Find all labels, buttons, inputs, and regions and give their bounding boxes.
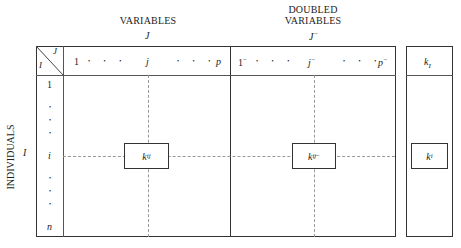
dcol-first-sup: −: [243, 56, 247, 64]
dcol-middle: j−: [308, 56, 316, 68]
col-dots-left: • • •: [88, 58, 127, 64]
dcol-middle-sup: −: [311, 56, 316, 64]
doubled-set-label: J−: [309, 30, 318, 42]
dcol-last-sup: −: [383, 56, 388, 64]
row-dot: •: [45, 172, 55, 185]
individuals-title: INDIVIDUALS: [2, 112, 18, 202]
dcol-last: p−: [378, 56, 388, 68]
row-first: 1: [47, 79, 52, 90]
individuals-set-label: I: [23, 147, 26, 158]
doubled-title-line1: DOUBLED: [283, 4, 343, 15]
cell-kij-doubled-sup: −: [315, 152, 320, 160]
col-middle: j: [146, 56, 149, 67]
dcol-dots-right: • • •: [343, 58, 382, 64]
row-dot: •: [45, 198, 55, 211]
block-divider: [230, 46, 231, 237]
doubled-set-sup: −: [313, 30, 318, 38]
dcol-first: 1−: [238, 56, 247, 68]
margin-header-divider: [406, 75, 453, 76]
row-i-guide: [63, 156, 395, 157]
corner-col-label: J: [53, 46, 57, 56]
cell-kij-sub: ij: [147, 152, 151, 160]
row-dot: •: [45, 127, 55, 140]
row-middle: i: [48, 150, 51, 161]
row-dot: •: [45, 114, 55, 127]
individuals-title-text: INDIVIDUALS: [5, 125, 16, 190]
cell-ki-sub: i: [431, 152, 433, 160]
row-dot: •: [45, 101, 55, 114]
variables-set-label: J: [145, 30, 149, 41]
col-last: p: [216, 56, 221, 67]
corner-row-label: I: [39, 60, 42, 70]
cell-kij: kij: [124, 143, 169, 169]
row-dots-lower: • • •: [45, 172, 55, 211]
header-divider: [36, 75, 396, 76]
row-last: n: [47, 221, 52, 232]
doubled-title-line2: VARIABLES: [283, 15, 343, 26]
dcol-dots-left: • • •: [256, 58, 295, 64]
row-dot: •: [45, 185, 55, 198]
margin-header: kI: [424, 56, 431, 70]
cell-kij-doubled: kij−: [292, 143, 336, 169]
col-dots-right: • • •: [177, 58, 216, 64]
col-first: 1: [74, 56, 79, 67]
row-dots-upper: • • •: [45, 101, 55, 140]
margin-header-sub: I: [428, 62, 430, 70]
cell-ki: ki: [411, 143, 448, 169]
variables-title: VARIABLES: [118, 15, 178, 26]
